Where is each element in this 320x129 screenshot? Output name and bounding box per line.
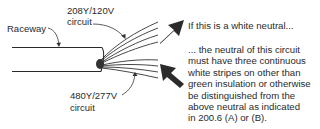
note-line: must have three continuous	[188, 55, 311, 66]
circuit-top-word-label: circuit	[67, 16, 92, 27]
raceway-leader-arrowhead	[57, 43, 62, 48]
circuit-top-voltage-label: 208Y/120V	[67, 5, 114, 16]
note-line: white stripes on other than	[188, 67, 311, 78]
leader-lines	[48, 24, 135, 95]
note-line: in 200.6 (A) or (B).	[188, 112, 311, 123]
conductors-480y-277v	[102, 60, 158, 78]
circuit-bottom-voltage-label: 480Y/277V	[70, 90, 117, 101]
note-line: green insulation or otherwise	[188, 78, 311, 89]
note-line: above neutral as indicated	[188, 101, 311, 112]
circuit-top-leader	[93, 24, 124, 37]
conductors-208y-120v	[101, 22, 158, 63]
note-white-neutral: If this is a white neutral...	[188, 20, 294, 31]
circuit-bottom-leader	[122, 74, 135, 95]
raceway-leader	[48, 28, 59, 45]
arrow-down-left-icon	[160, 20, 184, 44]
circuit-bottom-word-label: circuit	[70, 102, 95, 113]
note-second-neutral: ... the neutral of this circuit must hav…	[188, 44, 311, 124]
raceway-pipe	[12, 48, 104, 72]
raceway-label: Raceway	[7, 23, 46, 34]
conductor-bundle-end	[96, 59, 104, 69]
arrow-up-left-icon	[160, 64, 184, 88]
note-line: be distinguished from the	[188, 90, 311, 101]
note-line: ... the neutral of this circuit	[188, 44, 311, 55]
